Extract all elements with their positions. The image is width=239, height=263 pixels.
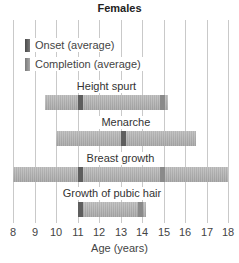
gridline (228, 20, 229, 223)
onset-marker (121, 131, 126, 146)
x-tick-label: 9 (25, 226, 45, 238)
completion-swatch-icon (25, 58, 30, 71)
range-bar (56, 131, 196, 146)
x-tick-label: 14 (132, 226, 152, 238)
onset-swatch-icon (25, 39, 30, 52)
x-tick-label: 17 (197, 226, 217, 238)
bar-label: Height spurt (74, 80, 139, 93)
x-tick-label: 8 (3, 226, 23, 238)
completion-marker (138, 202, 143, 217)
range-bar (78, 202, 147, 217)
x-tick-label: 18 (218, 226, 238, 238)
gridline (185, 20, 186, 223)
x-tick-label: 12 (89, 226, 109, 238)
gridline (13, 20, 14, 223)
x-tick-label: 11 (68, 226, 88, 238)
x-tick-label: 15 (154, 226, 174, 238)
range-bar (13, 167, 228, 182)
gridline (164, 20, 165, 223)
x-axis-label: Age (years) (0, 242, 239, 254)
chart-title: Females (0, 0, 239, 16)
x-tick-label: 16 (175, 226, 195, 238)
range-bar (45, 95, 168, 110)
onset-marker (78, 95, 83, 110)
gridline (207, 20, 208, 223)
completion-marker (160, 167, 165, 182)
bar-label: Menarche (98, 116, 153, 129)
legend-item-completion: Completion (average) (25, 57, 144, 71)
legend-item-onset: Onset (average) (25, 38, 117, 52)
legend-label-completion: Completion (average) (35, 58, 141, 70)
bar-label: Breast growth (84, 152, 158, 165)
x-tick-label: 13 (111, 226, 131, 238)
legend-label-onset: Onset (average) (35, 39, 114, 51)
x-tick-label: 10 (46, 226, 66, 238)
onset-marker (78, 167, 83, 182)
completion-marker (160, 95, 165, 110)
bar-label: Growth of pubic hair (60, 187, 164, 200)
onset-marker (78, 202, 83, 217)
